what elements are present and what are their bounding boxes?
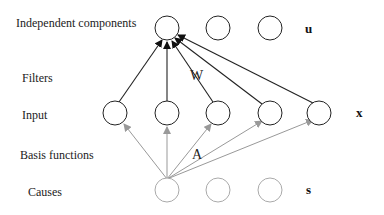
node-x3: [206, 101, 230, 125]
matrix-A: A: [192, 147, 202, 163]
node-x1: [103, 101, 127, 125]
label-filters: Filters: [22, 71, 53, 85]
node-s1: [155, 178, 179, 202]
node-x5: [307, 101, 331, 125]
node-u3: [258, 16, 282, 40]
label-independent-components: Independent components: [16, 16, 136, 30]
variable-s: s: [306, 182, 311, 198]
node-x4: [258, 101, 282, 125]
cause-nodes: [155, 178, 282, 202]
basis-edges: [124, 120, 313, 179]
label-basis-functions: Basis functions: [20, 148, 94, 162]
node-s2: [206, 178, 230, 202]
input-nodes: [103, 101, 331, 125]
node-u2: [206, 16, 230, 40]
network-graph: [0, 0, 384, 215]
node-u1: [155, 16, 179, 40]
variable-u: u: [305, 21, 312, 37]
node-x2: [155, 101, 179, 125]
independent-component-nodes: [155, 16, 282, 40]
ica-diagram: Independent components Filters Input Bas…: [0, 0, 384, 215]
matrix-W: W: [190, 68, 203, 84]
filter-edges: [119, 35, 315, 104]
variable-x: x: [356, 105, 363, 121]
label-input: Input: [22, 108, 47, 122]
label-causes: Causes: [28, 185, 62, 199]
node-s3: [258, 178, 282, 202]
